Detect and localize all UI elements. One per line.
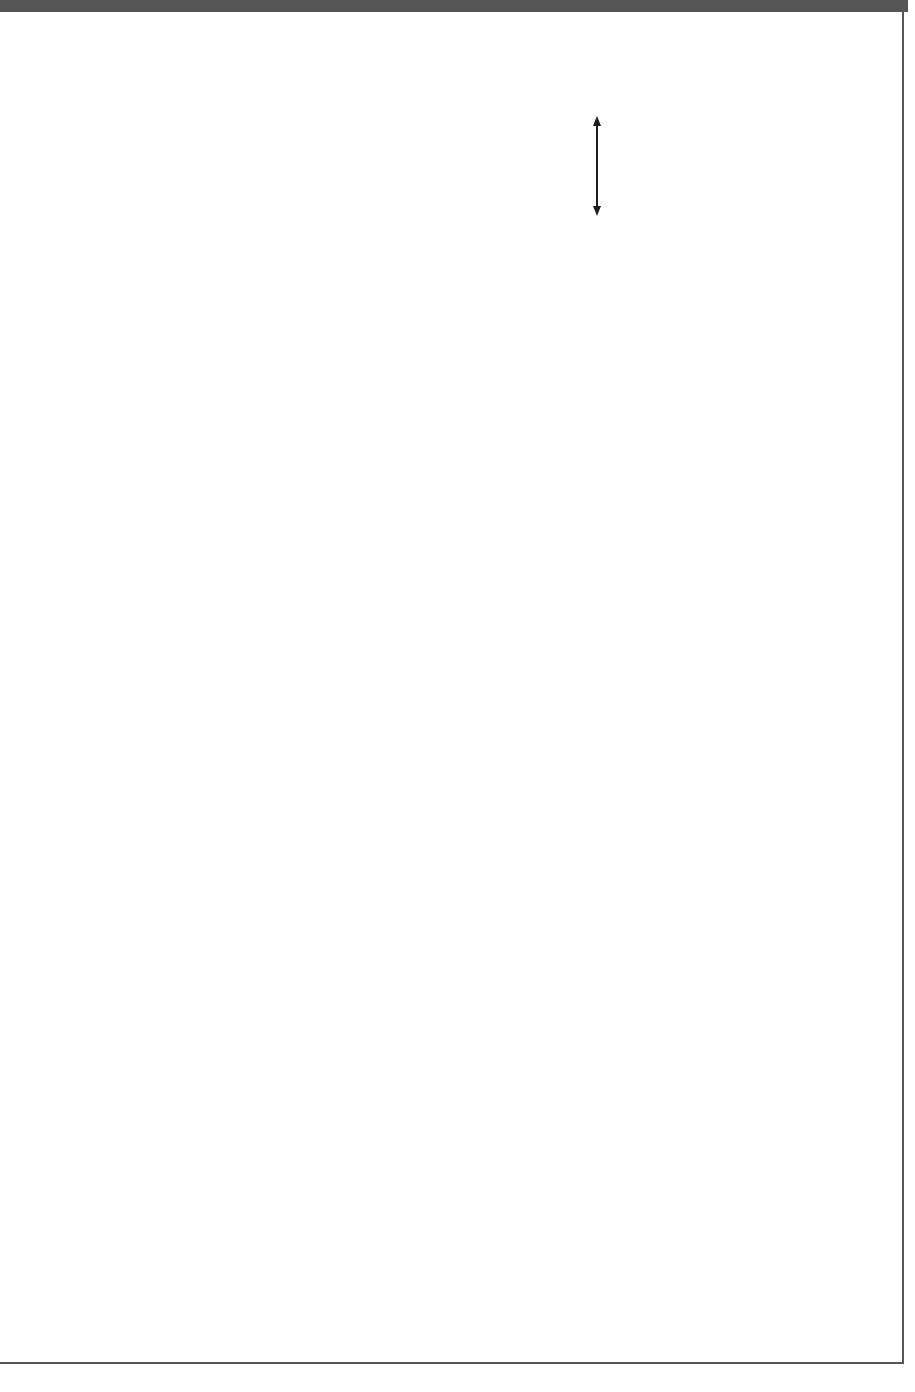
figure-canvas [0, 0, 915, 1392]
profit-arrow-icon [593, 116, 601, 216]
total-cost-revenue-chart [593, 116, 601, 216]
